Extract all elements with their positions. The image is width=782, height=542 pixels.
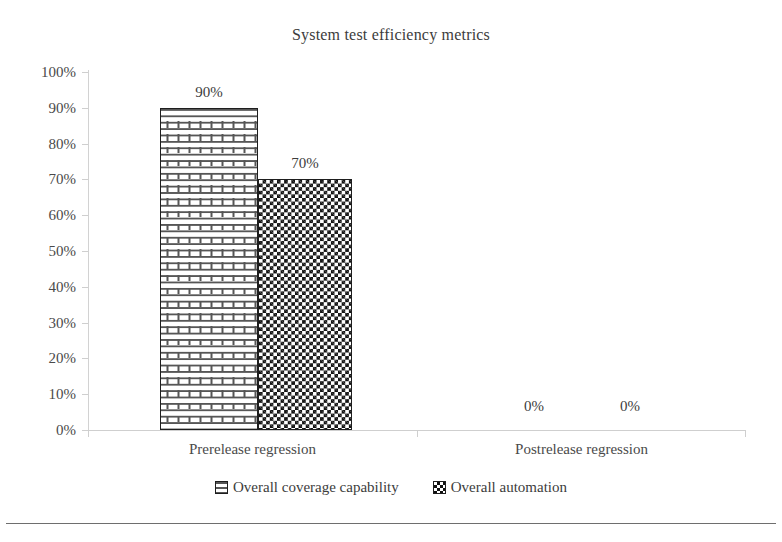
bar-prerelease-automation — [258, 179, 352, 430]
bottom-divider — [6, 523, 776, 524]
x-axis-tick — [88, 430, 89, 437]
y-axis-label-50: 50% — [16, 243, 76, 260]
y-axis-label-100: 100% — [16, 64, 76, 81]
x-axis-tick — [417, 430, 418, 437]
legend-swatch-checker-icon — [433, 481, 446, 494]
legend-swatch-brick-icon — [215, 481, 228, 494]
y-axis-line — [88, 70, 89, 432]
chart-legend: Overall coverage capability Overall auto… — [0, 479, 782, 496]
y-axis-label-20: 20% — [16, 350, 76, 367]
chart-page: System test efficiency metrics 100% 90% … — [0, 0, 782, 542]
chart-title: System test efficiency metrics — [0, 26, 782, 44]
y-axis-label-40: 40% — [16, 278, 76, 295]
y-axis-label-0: 0% — [16, 422, 76, 439]
y-axis-label-80: 80% — [16, 135, 76, 152]
y-axis-label-90: 90% — [16, 99, 76, 116]
y-axis-label-10: 10% — [16, 386, 76, 403]
bar-prerelease-coverage — [160, 108, 258, 430]
bar-value-postrelease-automation: 0% — [583, 398, 677, 415]
x-axis-tick — [745, 430, 746, 437]
y-axis-label-70: 70% — [16, 171, 76, 188]
y-axis-label-60: 60% — [16, 207, 76, 224]
legend-item-automation: Overall automation — [433, 479, 567, 496]
y-axis-label-30: 30% — [16, 314, 76, 331]
legend-label-coverage: Overall coverage capability — [233, 479, 399, 496]
bar-value-prerelease-coverage: 90% — [160, 84, 258, 101]
x-axis-category-postrelease: Postrelease regression — [417, 441, 746, 458]
bar-value-postrelease-coverage: 0% — [485, 398, 583, 415]
bar-value-prerelease-automation: 70% — [258, 155, 352, 172]
x-axis-category-prerelease: Prerelease regression — [88, 441, 417, 458]
legend-item-coverage: Overall coverage capability — [215, 479, 399, 496]
legend-label-automation: Overall automation — [451, 479, 567, 496]
